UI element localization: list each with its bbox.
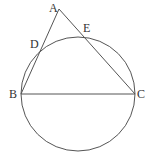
label-d: D [30,37,39,51]
label-e: E [83,21,90,35]
label-c: C [137,87,145,101]
geometry-diagram: A B C D E [0,0,150,156]
label-b: B [9,87,17,101]
label-a: A [49,1,58,15]
segment-ab [21,9,59,94]
segment-ac [59,9,135,94]
